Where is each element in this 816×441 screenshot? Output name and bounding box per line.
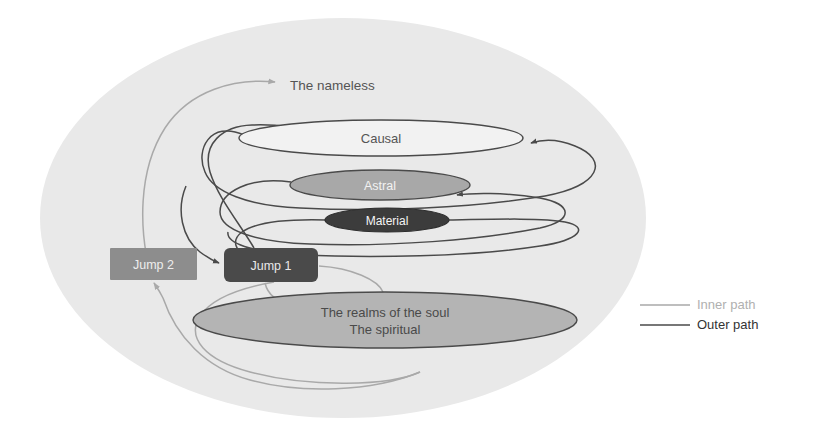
node-material[interactable]: Material — [325, 208, 449, 232]
astral-label: Astral — [364, 179, 396, 193]
legend-item-inner-path: Inner path — [640, 297, 756, 312]
jump2-label: Jump 2 — [133, 258, 174, 272]
soul-label-line1: The realms of the soul — [321, 305, 450, 320]
node-jump2[interactable]: Jump 2 — [110, 248, 197, 280]
spiral-diagram-svg: Causal Astral Material The realms of the… — [0, 0, 816, 441]
nameless-label: The nameless — [290, 78, 375, 93]
jump1-label: Jump 1 — [251, 259, 292, 273]
legend: Inner path Outer path — [640, 297, 758, 332]
soul-ellipse[interactable] — [193, 292, 577, 348]
causal-label: Causal — [361, 131, 402, 146]
node-astral[interactable]: Astral — [290, 170, 470, 200]
soul-label-line2: The spiritual — [350, 322, 421, 337]
node-causal[interactable]: Causal — [239, 120, 523, 156]
node-jump1[interactable]: Jump 1 — [224, 248, 318, 282]
diagram-canvas: Causal Astral Material The realms of the… — [0, 0, 816, 441]
legend-label-outer-path: Outer path — [697, 317, 758, 332]
node-soul[interactable]: The realms of the soul The spiritual — [193, 292, 577, 348]
legend-label-inner-path: Inner path — [697, 297, 756, 312]
material-label: Material — [366, 214, 409, 228]
legend-item-outer-path: Outer path — [640, 317, 758, 332]
